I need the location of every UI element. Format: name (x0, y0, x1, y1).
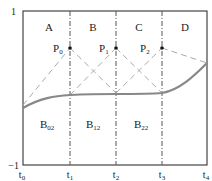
basis-label-b12: B12 (86, 118, 101, 132)
region-label-d: D (181, 21, 189, 33)
region-label-a: A (45, 21, 53, 33)
knot-label-t1: t1 (67, 169, 74, 181)
control-point-p1 (114, 46, 118, 50)
control-point-p0 (68, 46, 72, 50)
point-label-p1: P1 (99, 42, 109, 56)
basis-label-b22: B22 (134, 118, 149, 132)
spline-curve (23, 63, 207, 108)
knot-label-t2: t2 (113, 169, 120, 181)
control-point-p2 (160, 46, 164, 50)
point-label-p0: P0 (53, 42, 63, 56)
region-label-b: B (89, 21, 96, 33)
spline-diagram: 1 −1 A B C D P0 P1 P2 B02 B12 B22 t0 t1 … (0, 0, 212, 181)
knot-label-t3: t3 (159, 169, 166, 181)
point-label-p2: P2 (140, 42, 150, 56)
y-label-bottom: −1 (8, 160, 19, 171)
y-label-top: 1 (11, 6, 16, 17)
construction-line (70, 48, 116, 93)
construction-line (70, 48, 116, 95)
knot-label-t4: t4 (203, 169, 210, 181)
plot-frame (23, 11, 207, 165)
construction-line (162, 48, 207, 63)
region-label-c: C (135, 21, 142, 33)
knot-label-t0: t0 (19, 169, 26, 181)
basis-label-b02: B02 (40, 118, 55, 132)
